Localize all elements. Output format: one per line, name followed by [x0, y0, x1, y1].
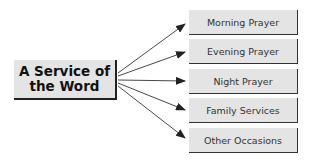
target-node-evening-prayer: Evening Prayer: [189, 39, 298, 64]
arrow-other-occasions: [118, 86, 185, 138]
target-label: Other Occasions: [204, 135, 282, 146]
target-label: Evening Prayer: [207, 46, 279, 57]
target-label: Night Prayer: [213, 76, 272, 87]
target-node-morning-prayer: Morning Prayer: [189, 10, 298, 35]
target-node-other-occasions: Other Occasions: [189, 128, 298, 153]
target-label: Morning Prayer: [207, 17, 279, 28]
source-label-line2: the Word: [19, 79, 110, 94]
arrow-night-prayer: [118, 80, 185, 81]
target-node-family-services: Family Services: [189, 98, 298, 123]
arrow-evening-prayer: [118, 52, 185, 76]
source-label-line1: A Service of: [19, 64, 110, 79]
source-node: A Service of the Word: [14, 60, 117, 100]
target-node-night-prayer: Night Prayer: [189, 69, 298, 94]
arrow-morning-prayer: [118, 24, 185, 73]
arrow-family-services: [118, 83, 185, 110]
target-label: Family Services: [206, 105, 280, 116]
